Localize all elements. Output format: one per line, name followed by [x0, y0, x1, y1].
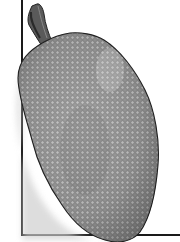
- jackfruit-illustration: [0, 0, 180, 242]
